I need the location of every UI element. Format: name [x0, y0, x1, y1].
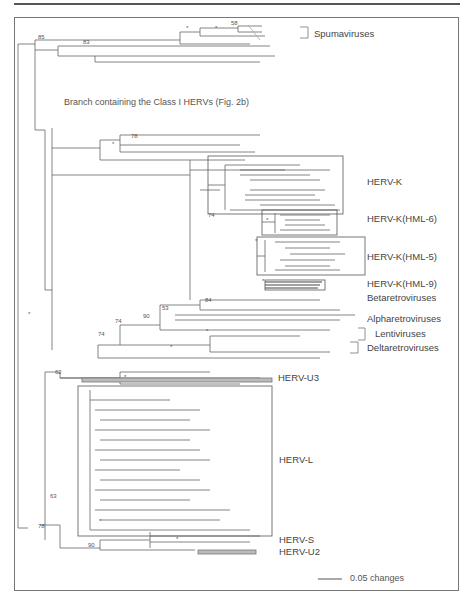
- bootstrap-value: 74: [208, 212, 215, 218]
- clade-label-hervk: HERV-K: [367, 176, 402, 187]
- bootstrap-value: 78: [131, 133, 138, 139]
- clade-label-delta: Deltaretroviruses: [367, 342, 439, 353]
- bootstrap-value: *: [215, 25, 217, 31]
- clade-label-spuma: Spumaviruses: [314, 28, 374, 39]
- bootstrap-value: 85: [38, 34, 45, 40]
- bootstrap-value: *: [266, 217, 268, 223]
- bootstrap-value: *: [99, 518, 101, 524]
- bootstrap-value: 58: [231, 20, 238, 26]
- bootstrap-value: 90: [143, 313, 150, 319]
- bootstrap-value: 83: [83, 39, 90, 45]
- clade-label-hml6: HERV-K(HML-6): [367, 213, 437, 224]
- class-i-branch-note: Branch containing the Class I HERVs (Fig…: [64, 97, 249, 107]
- bootstrap-value: 90: [88, 542, 95, 548]
- clade-label-hml9: HERV-K(HML-9): [367, 278, 437, 289]
- clade-label-lenti: Lentiviruses: [375, 328, 426, 339]
- bootstrap-value: 84: [205, 297, 212, 303]
- clade-label-beta: Betaretroviruses: [367, 292, 436, 303]
- scale-bar-label: 0.05 changes: [350, 573, 404, 583]
- bootstrap-value: *: [176, 536, 178, 542]
- bootstrap-value: 74: [115, 318, 122, 324]
- clade-label-hervs: HERV-S: [279, 534, 314, 545]
- clade-label-u3: HERV-U3: [278, 372, 319, 383]
- clade-label-u2: HERV-U2: [279, 546, 320, 557]
- bootstrap-value: *: [186, 25, 188, 31]
- clade-label-hml5: HERV-K(HML-5): [367, 251, 437, 262]
- clade-label-alpha: Alpharetroviruses: [367, 313, 441, 324]
- bootstrap-value: 74: [98, 331, 105, 337]
- bootstrap-value: 62: [55, 369, 62, 375]
- bootstrap-value: *: [28, 311, 30, 317]
- bootstrap-value: *: [124, 374, 126, 380]
- bootstrap-value: 63: [50, 493, 57, 499]
- phylogenetic-tree: [0, 0, 473, 606]
- bootstrap-value: *: [255, 238, 257, 244]
- bootstrap-value: *: [170, 344, 172, 350]
- bootstrap-value: 53: [162, 305, 169, 311]
- clade-label-hervl: HERV-L: [279, 454, 313, 465]
- bootstrap-value: *: [206, 328, 208, 334]
- bootstrap-value: *: [262, 278, 264, 284]
- bootstrap-value: 78: [38, 523, 45, 529]
- bootstrap-value: *: [112, 141, 114, 147]
